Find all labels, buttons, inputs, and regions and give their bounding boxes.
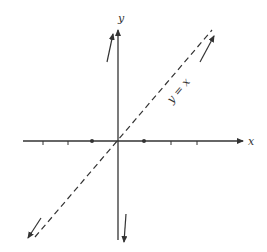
x-axis-label: x (248, 135, 255, 148)
y-axis: y (117, 12, 125, 240)
diagram-canvas: x y y = x (0, 0, 267, 252)
coordinate-plane: x y y = x (0, 0, 267, 252)
identity-line-label: y = x (164, 75, 194, 107)
x-axis: x (23, 135, 255, 148)
arrow-upper-right-icon (200, 36, 214, 62)
arrow-lower-left-icon (28, 218, 41, 238)
point-pos-one (142, 139, 146, 143)
identity-line: y = x (35, 30, 212, 237)
direction-arrows (28, 34, 214, 242)
y-axis-label: y (117, 12, 125, 25)
point-neg-one (90, 139, 94, 143)
arrow-upper-left-icon (107, 34, 113, 62)
arrow-lower-right-icon (124, 214, 126, 242)
